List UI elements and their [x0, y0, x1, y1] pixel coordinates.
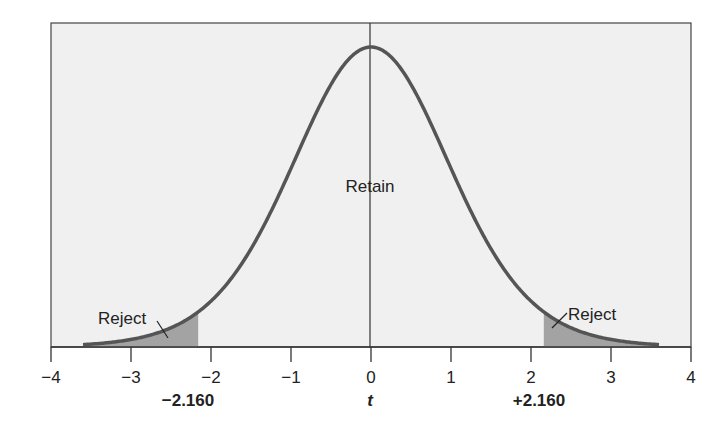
t-distribution-chart: −4−3−2−101234 Retain Reject Reject −2.16… — [0, 0, 723, 430]
x-tick-label: 4 — [686, 368, 695, 387]
x-tick-label: −4 — [41, 368, 60, 387]
x-axis-ticks: −4−3−2−101234 — [41, 347, 695, 387]
x-tick-label: −1 — [281, 368, 300, 387]
x-tick-label: −3 — [121, 368, 140, 387]
reject-left-label: Reject — [98, 309, 146, 328]
x-axis-title: t — [367, 391, 374, 410]
x-tick-label: −2 — [201, 368, 220, 387]
x-tick-label: 3 — [606, 368, 615, 387]
x-tick-label: 0 — [366, 368, 375, 387]
critical-value-right: +2.160 — [513, 391, 565, 410]
retain-label: Retain — [345, 177, 394, 196]
reject-right-label: Reject — [568, 305, 616, 324]
x-tick-label: 2 — [526, 368, 535, 387]
x-tick-label: 1 — [446, 368, 455, 387]
critical-value-left: −2.160 — [162, 391, 214, 410]
